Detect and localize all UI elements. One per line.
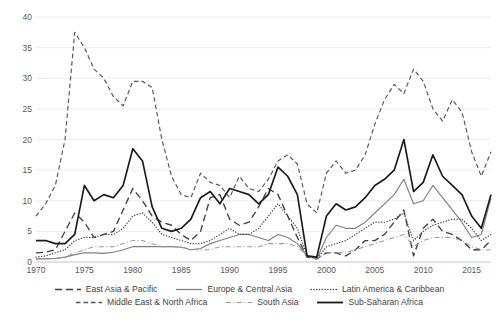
x-axis-tick-label: 2000	[306, 265, 346, 275]
plot-area	[36, 17, 491, 262]
x-axis-tick-label: 2005	[355, 265, 395, 275]
y-axis-tick-label: 20	[6, 136, 32, 145]
legend-row: East Asia & PacificEurope & Central Asia…	[0, 283, 498, 296]
legend-item[interactable]: East Asia & Pacific	[54, 285, 158, 294]
x-axis-tick-label: 1970	[16, 265, 56, 275]
legend-label: Sub-Saharan Africa	[348, 298, 423, 307]
y-axis-tick-label: 15	[6, 166, 32, 175]
legend-label: Latin America & Caribbean	[342, 285, 444, 294]
legend-swatch-icon	[310, 285, 338, 294]
legend-item[interactable]: Sub-Saharan Africa	[316, 298, 423, 307]
x-axis-tick-label: 1985	[161, 265, 201, 275]
figure-caption	[6, 319, 492, 330]
legend-item[interactable]: Europe & Central Asia	[175, 285, 292, 294]
y-axis-tick-label: 35	[6, 44, 32, 53]
x-axis-tick-label: 1975	[64, 265, 104, 275]
series-line	[36, 179, 491, 259]
legend-swatch-icon	[175, 285, 203, 294]
y-axis: 4035302520151050	[0, 0, 32, 262]
legend-swatch-icon	[54, 285, 82, 294]
chart-legend: East Asia & PacificEurope & Central Asia…	[0, 283, 498, 309]
x-axis-tick-label: 1995	[258, 265, 298, 275]
series-line	[36, 32, 491, 216]
legend-label: Middle East & North Africa	[107, 298, 207, 307]
legend-swatch-icon	[225, 298, 253, 307]
legend-swatch-icon	[75, 298, 103, 307]
x-axis-tick-label: 1990	[210, 265, 250, 275]
legend-item[interactable]: South Asia	[225, 298, 298, 307]
x-axis-tick-label: 1980	[113, 265, 153, 275]
legend-label: East Asia & Pacific	[86, 285, 158, 294]
legend-row: Middle East & North AfricaSouth AsiaSub-…	[0, 296, 498, 309]
y-axis-tick-label: 40	[6, 13, 32, 22]
legend-label: South Asia	[257, 298, 298, 307]
y-axis-tick-label: 10	[6, 197, 32, 206]
legend-item[interactable]: Latin America & Caribbean	[310, 285, 444, 294]
x-axis: 1970197519801985199019952000200520102015	[36, 265, 491, 279]
x-axis-tick-label: 2015	[452, 265, 492, 275]
legend-swatch-icon	[316, 298, 344, 307]
series-line	[36, 234, 491, 259]
y-axis-tick-label: 30	[6, 74, 32, 83]
legend-item[interactable]: Middle East & North Africa	[75, 298, 207, 307]
y-axis-tick-label: 25	[6, 105, 32, 114]
line-chart-svg	[36, 17, 491, 262]
y-axis-tick-label: 5	[6, 227, 32, 236]
legend-label: Europe & Central Asia	[207, 285, 292, 294]
chart-figure: 4035302520151050 19701975198019851990199…	[0, 0, 498, 330]
x-axis-tick-label: 2010	[403, 265, 443, 275]
